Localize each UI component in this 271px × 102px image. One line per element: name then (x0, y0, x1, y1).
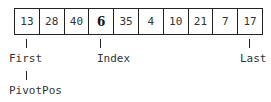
array-cell-1: 28 (40, 9, 65, 34)
array-diagram: 13 28 40 6 35 4 10 21 7 17 (14, 8, 263, 35)
array-cell-5: 4 (139, 9, 164, 34)
last-label: Last (240, 52, 267, 65)
first-label: First (9, 52, 42, 65)
array-cell-0: 13 (15, 9, 40, 34)
pivotpos-label: PivotPos (9, 84, 62, 97)
pivotpos-pointer-line (26, 71, 27, 80)
array-cell-2: 40 (65, 9, 90, 34)
last-pointer-line (249, 39, 250, 48)
array-cell-9: 17 (238, 9, 263, 34)
index-pointer-line (100, 39, 101, 48)
array-cell-8: 7 (213, 9, 238, 34)
array-cell-4: 35 (114, 9, 139, 34)
index-label: Index (97, 52, 130, 65)
first-pointer-line (26, 39, 27, 48)
array-cell-7: 21 (189, 9, 214, 34)
array-cell-3: 6 (89, 9, 114, 34)
array-cell-6: 10 (164, 9, 189, 34)
